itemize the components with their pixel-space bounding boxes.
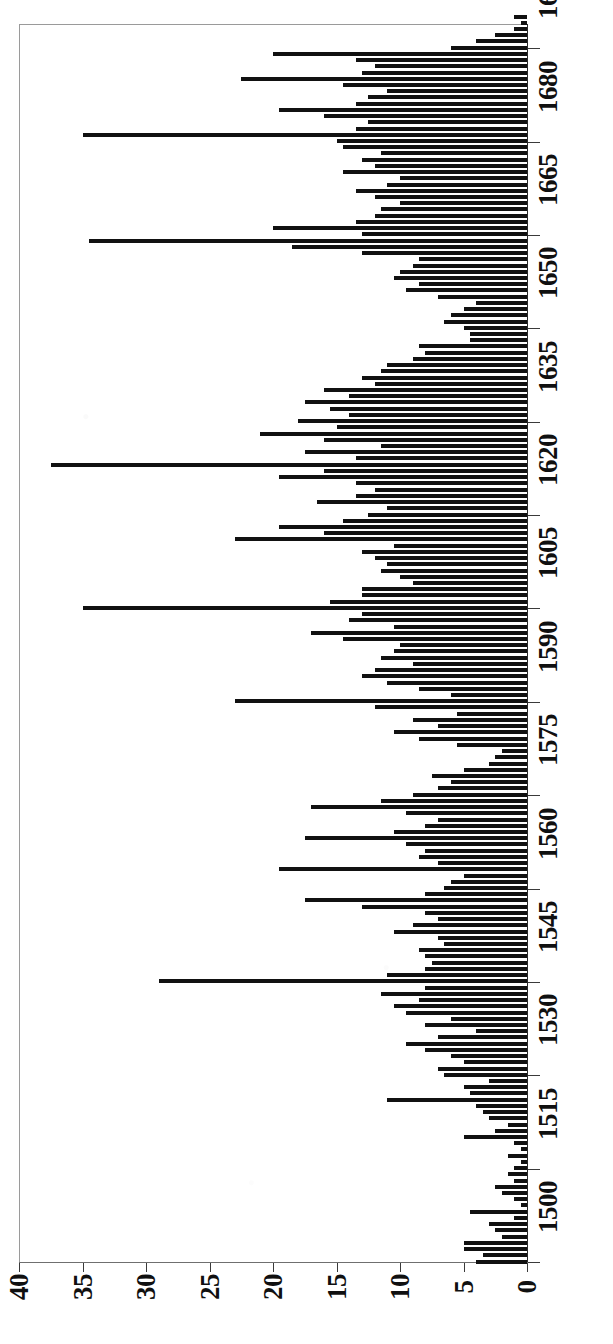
bar [241, 77, 527, 81]
bar [489, 762, 527, 766]
bar [495, 33, 527, 37]
bar [444, 320, 527, 324]
bar [495, 1185, 527, 1189]
bar [368, 120, 527, 124]
bar [387, 1098, 527, 1102]
bar [375, 214, 527, 218]
bar [400, 575, 527, 579]
histogram-figure: 0510152025303540 15001515153015451560157… [0, 0, 613, 1344]
bar [387, 89, 527, 93]
bar [495, 755, 527, 759]
bar [362, 587, 527, 591]
value-axis-tick-label: 25 [195, 1257, 225, 1317]
bar [400, 201, 527, 205]
bar [508, 1123, 527, 1127]
bar [413, 718, 527, 722]
bar [464, 1135, 528, 1139]
bar [406, 811, 527, 815]
category-axis-tick [528, 328, 540, 329]
bar [362, 158, 527, 162]
bar [362, 376, 527, 380]
bar [324, 469, 527, 473]
bar [495, 1129, 527, 1133]
bar [324, 438, 527, 442]
bar [89, 239, 527, 243]
bar [311, 631, 527, 635]
bar [514, 1216, 527, 1220]
bar [432, 961, 527, 965]
bar [464, 1060, 528, 1064]
bar [521, 1203, 527, 1207]
bar [362, 612, 527, 616]
bar [489, 1116, 527, 1120]
bar [451, 1054, 527, 1058]
bar [451, 693, 527, 697]
bar [375, 195, 527, 199]
bar [387, 562, 527, 566]
bar [349, 413, 527, 417]
bar [394, 649, 527, 653]
bar [368, 513, 527, 517]
category-axis-tick [528, 48, 540, 49]
category-axis-tick [528, 795, 540, 796]
bar [375, 164, 527, 168]
bar [305, 898, 527, 902]
bar [400, 643, 527, 647]
bar [381, 799, 527, 803]
bar [394, 276, 527, 280]
bar [425, 1023, 527, 1027]
bar [464, 874, 528, 878]
value-axis-tick-label: 20 [258, 1257, 288, 1317]
bar [375, 668, 527, 672]
value-axis-tick-label: 0 [512, 1257, 542, 1317]
bar [438, 1035, 527, 1039]
bar [273, 52, 527, 56]
bar [387, 681, 527, 685]
bar [311, 805, 527, 809]
bar [356, 220, 527, 224]
bar [406, 842, 527, 846]
bar [356, 494, 527, 498]
bar [508, 1154, 527, 1158]
category-axis-tick [528, 1262, 540, 1263]
bar [387, 363, 527, 367]
bar [419, 687, 527, 691]
bar [425, 824, 527, 828]
bar [425, 1048, 527, 1052]
bar [375, 556, 527, 560]
bar [413, 793, 527, 797]
bar [457, 712, 527, 716]
bar [394, 625, 527, 629]
bar [324, 388, 527, 392]
bar [502, 749, 527, 753]
bar [394, 1004, 527, 1008]
category-axis-tick [528, 982, 540, 983]
bar [521, 1147, 527, 1151]
bar [343, 83, 527, 87]
bar [451, 46, 527, 50]
bar [349, 394, 527, 398]
bar [514, 1179, 527, 1183]
bar [260, 432, 527, 436]
bar [159, 979, 527, 983]
bar [483, 1110, 527, 1114]
bar [83, 133, 528, 137]
bar [394, 544, 527, 548]
bar [444, 1073, 527, 1077]
bar [419, 282, 527, 286]
bar [381, 207, 527, 211]
bar [292, 245, 527, 249]
bar [464, 326, 528, 330]
bar [400, 176, 527, 180]
bar [419, 998, 527, 1002]
bar [343, 637, 527, 641]
bar [444, 886, 527, 890]
bar [337, 139, 528, 143]
bar [83, 606, 528, 610]
bar [381, 444, 527, 448]
category-axis-tick [528, 515, 540, 516]
bar [394, 930, 527, 934]
bar [381, 992, 527, 996]
bar [508, 1172, 527, 1176]
bar [356, 481, 527, 485]
